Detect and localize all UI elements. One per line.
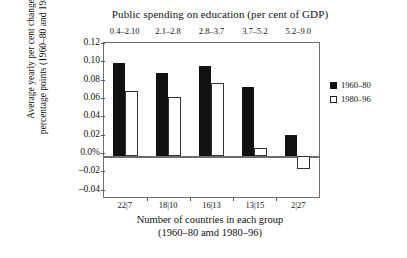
legend-swatch-open-square-icon [330,96,337,103]
plot-area [103,42,320,198]
x-axis-category-labels: 22|7 18|10 16|13 13|15 2|27 [103,200,320,210]
chart-legend: 1960–80 1980–96 [330,78,371,106]
bar-groups [104,43,319,197]
bar-1960-80 [285,135,297,156]
top-axis-tick-label: 2.1–2.8 [146,26,189,36]
legend-swatch-filled-square-icon [330,82,337,89]
top-axis-category-labels: 0.4–2.10 2.1–2.8 2.8–3.7 3.7–5.2 5.2–9.0 [103,26,320,36]
y-axis-tick-label: 0.04 [83,110,100,120]
x-axis-tick-label: 18|10 [146,200,189,210]
x-axis-tick-label: 22|7 [103,200,146,210]
bar-group [190,43,233,197]
top-axis-tick-label: 5.2–9.0 [277,26,320,36]
chart-top-title: Public spending on education (per cent o… [95,8,345,20]
x-axis-title-line1: Number of countries in each group [85,213,335,226]
bar-1980-96 [297,156,309,169]
y-axis-tick-label: 0.12 [83,37,100,47]
bar-group [147,43,190,197]
legend-entry: 1980–96 [330,92,371,106]
bar-group [104,43,147,197]
bar-1980-96 [254,148,266,156]
bar-group [276,43,319,197]
y-axis-tick-label: –0.02 [79,165,100,175]
bar-1960-80 [199,66,211,157]
y-axis-title: Average yearly per cent change in percen… [25,0,49,138]
y-axis-tick-label: 0.02 [83,129,100,139]
x-axis-tick-label: 13|15 [233,200,276,210]
y-axis-tick-label: –0.04 [79,184,100,194]
bar-1960-80 [242,87,254,156]
legend-entry: 1960–80 [330,78,371,92]
legend-label: 1980–96 [341,92,371,106]
top-axis-tick-label: 2.8–3.7 [190,26,233,36]
top-axis-tick-label: 0.4–2.10 [103,26,146,36]
bar-1960-80 [113,63,125,156]
bar-1980-96 [125,91,137,156]
y-axis-tick-labels: 0.12 0.10 0.08 0.06 0.04 0.02 0.0% –0.02… [60,42,100,198]
bar-1960-80 [156,73,168,156]
chart-figure: Public spending on education (per cent o… [0,0,407,258]
y-axis-tick-label: 0.10 [83,55,100,65]
y-axis-title-wrapper: Average yearly per cent change in percen… [13,0,61,139]
x-axis-tick-label: 2|27 [277,200,320,210]
legend-label: 1960–80 [341,78,371,92]
x-axis-title-line2: (1960–80 amd 1980–96) [85,226,335,239]
y-axis-tick-label: 0.06 [83,92,100,102]
x-axis-tick-label: 16|13 [190,200,233,210]
top-axis-tick-label: 3.7–5.2 [233,26,276,36]
x-axis-title: Number of countries in each group (1960–… [85,213,335,239]
y-axis-tick-label: 0.08 [83,74,100,84]
y-axis-tick-label: 0.0% [80,147,100,157]
bar-1980-96 [211,83,223,156]
bar-1980-96 [168,97,180,156]
bar-group [233,43,276,197]
